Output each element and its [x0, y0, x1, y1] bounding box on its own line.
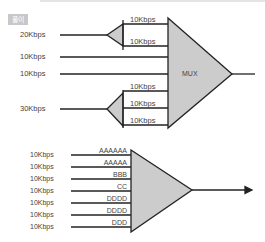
- upper-mux-diagram: [60, 18, 255, 128]
- upper-input-label: 30Kbps: [20, 104, 46, 113]
- upper-input-label: 10Kbps: [20, 52, 46, 61]
- lower-input-label: 10Kbps: [30, 187, 54, 195]
- split-label: 10Kbps: [130, 99, 156, 108]
- split-label: 10Kbps: [130, 116, 156, 125]
- data-label: BBB: [113, 171, 127, 178]
- data-label: CC: [117, 183, 127, 190]
- split-label: 10Kbps: [130, 82, 156, 91]
- lower-mux-diagram: [71, 150, 252, 232]
- upper-input-label: 20Kbps: [20, 30, 46, 39]
- data-label: AAAAAA: [99, 147, 127, 154]
- split-label: 10Kbps: [130, 37, 156, 46]
- lower-input-label: 10Kbps: [30, 163, 54, 171]
- mux-diagram: 20Kbps 10Kbps 10Kbps 30Kbps 10Kbps 10Kbp…: [0, 0, 265, 242]
- lower-input-label: 10Kbps: [30, 199, 54, 207]
- mux-label: MUX: [182, 70, 198, 77]
- lower-input-label: 10Kbps: [30, 223, 54, 231]
- data-label: AAAAA: [104, 159, 128, 166]
- upper-input-label: 10Kbps: [20, 69, 46, 78]
- split-label: 10Kbps: [130, 15, 156, 24]
- data-label: DDDD: [107, 195, 127, 202]
- data-label: DDD: [112, 219, 127, 226]
- lower-input-label: 10Kbps: [30, 175, 54, 183]
- arrow-head-icon: [245, 187, 252, 194]
- lower-input-label: 10Kbps: [30, 151, 54, 159]
- lower-input-label: 10Kbps: [30, 211, 54, 219]
- data-label: DDDD: [107, 207, 127, 214]
